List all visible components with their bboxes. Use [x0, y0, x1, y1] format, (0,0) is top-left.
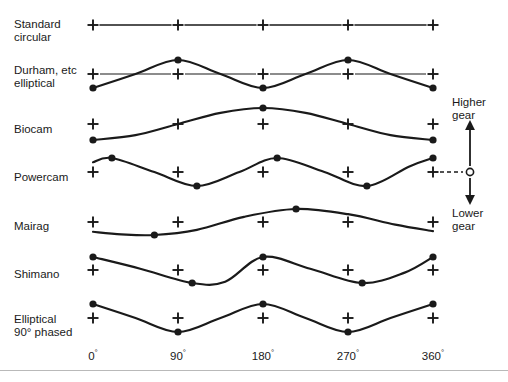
plus-marker: [343, 119, 354, 130]
extreme-dot-marker: [89, 253, 96, 260]
extreme-dot-marker: [151, 231, 158, 238]
extreme-dot-marker: [429, 154, 436, 161]
gear-scale-arrow: [440, 125, 474, 200]
plus-marker: [343, 313, 354, 324]
plus-marker: [173, 20, 184, 31]
plus-marker: [88, 265, 99, 276]
extreme-dot-marker: [174, 328, 181, 335]
extreme-dot-marker: [292, 205, 299, 212]
plus-marker: [428, 20, 439, 31]
plus-marker: [428, 69, 439, 80]
row-label-biocam: Biocam: [14, 123, 52, 136]
plus-marker: [258, 313, 269, 324]
x-axis-tick-270: 270°: [337, 348, 359, 362]
extreme-dot-marker: [108, 154, 115, 161]
plus-marker: [428, 119, 439, 130]
plus-marker: [88, 69, 99, 80]
plus-marker: [258, 265, 269, 276]
plus-marker: [173, 313, 184, 324]
extreme-dot-marker: [429, 84, 436, 91]
x-axis-tick-360: 360°: [422, 348, 444, 362]
plus-marker: [428, 265, 439, 276]
plus-marker: [258, 20, 269, 31]
plus-marker: [343, 265, 354, 276]
chainring-profile-figure: Standard circularDurham, etc ellipticalB…: [0, 0, 508, 382]
plus-marker: [343, 217, 354, 228]
plus-marker: [343, 69, 354, 80]
plus-marker: [428, 167, 439, 178]
plus-marker: [258, 167, 269, 178]
row-label-elliptical-90-phased: Elliptical 90° phased: [14, 313, 72, 338]
extreme-dot-marker: [189, 279, 196, 286]
plus-marker: [173, 265, 184, 276]
row-label-powercam: Powercam: [14, 171, 68, 184]
lower-gear-annotation: Lower gear: [452, 207, 483, 232]
extreme-dot-marker: [193, 182, 200, 189]
row-label-mairag: Mairag: [14, 220, 49, 233]
x-axis-tick-180: 180°: [252, 348, 274, 362]
extreme-dot-marker: [259, 300, 266, 307]
extreme-dot-marker: [259, 104, 266, 111]
plus-marker: [88, 20, 99, 31]
extreme-dot-marker: [344, 328, 351, 335]
neutral-pivot-open-circle: [466, 168, 473, 175]
row-label-shimano: Shimano: [14, 268, 59, 281]
plus-marker: [88, 217, 99, 228]
plus-marker: [173, 167, 184, 178]
extreme-dot-marker: [174, 56, 181, 63]
extreme-dot-marker: [429, 300, 436, 307]
series-3: [88, 154, 439, 189]
plus-marker: [258, 119, 269, 130]
plus-marker: [428, 313, 439, 324]
plus-marker: [173, 217, 184, 228]
extreme-dot-marker: [89, 300, 96, 307]
series-5: [88, 253, 439, 286]
plus-marker: [343, 167, 354, 178]
series-2: [88, 104, 439, 143]
extreme-dot-marker: [359, 279, 366, 286]
profile-plot: [0, 0, 508, 382]
plus-marker: [88, 167, 99, 178]
extreme-dot-marker: [429, 136, 436, 143]
x-axis-tick-90: 90°: [170, 348, 186, 362]
extreme-dot-marker: [344, 56, 351, 63]
extreme-dot-marker: [363, 182, 370, 189]
series-4: [88, 205, 439, 238]
bottom-divider-rule: [0, 370, 508, 371]
series-6: [88, 300, 439, 335]
row-label-durham-etc-elliptical: Durham, etc elliptical: [14, 64, 77, 89]
extreme-dot-marker: [89, 84, 96, 91]
series-0: [88, 20, 439, 31]
plus-marker: [428, 217, 439, 228]
x-axis-tick-0: 0°: [88, 348, 98, 362]
extreme-dot-marker: [274, 154, 281, 161]
plus-marker: [258, 217, 269, 228]
extreme-dot-marker: [259, 253, 266, 260]
extreme-dot-marker: [429, 253, 436, 260]
plus-marker: [88, 119, 99, 130]
series-1: [88, 56, 439, 91]
plus-marker: [88, 313, 99, 324]
plus-marker: [173, 119, 184, 130]
higher-gear-annotation: Higher gear: [452, 96, 486, 121]
plus-marker: [258, 69, 269, 80]
row-label-standard-circular: Standard circular: [14, 18, 61, 43]
plus-marker: [173, 69, 184, 80]
extreme-dot-marker: [89, 136, 96, 143]
plus-marker: [343, 20, 354, 31]
extreme-dot-marker: [259, 84, 266, 91]
